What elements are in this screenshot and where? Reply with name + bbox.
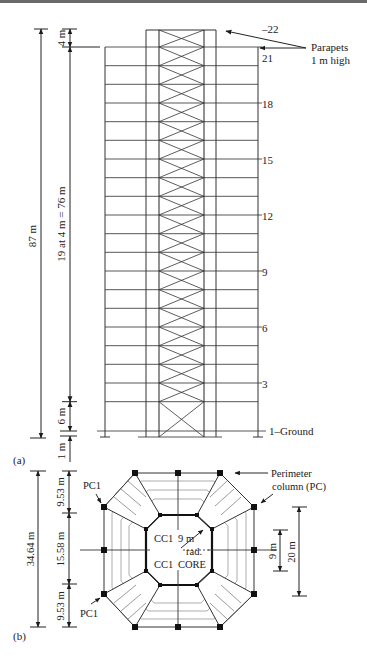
floor-label-12: 12 xyxy=(262,210,273,222)
floor-lines xyxy=(97,47,266,437)
dim-core-outer: 20 m xyxy=(286,541,297,562)
part-b-label: (b) xyxy=(13,630,26,643)
dim-typical-stories: 19 at 4 m = 76 m xyxy=(55,186,67,262)
pc1-top-label: PC1 xyxy=(83,480,101,491)
dim-bottom-segment: 9.53 m xyxy=(55,591,66,620)
floor-label-ground: 1–Ground xyxy=(269,425,314,437)
structural-diagram: 87 m 4 m 19 at 4 m = 76 m 6 m 1 m –22 21… xyxy=(0,0,367,662)
parapet-callout-line2: 1 m high xyxy=(311,54,351,66)
dim-top-story: 4 m xyxy=(55,29,67,46)
dim-core-inner: 9 m xyxy=(267,543,278,559)
core-label: CORE xyxy=(178,559,206,570)
pc1-bottom-label: PC1 xyxy=(80,608,98,619)
floor-label-3: 3 xyxy=(262,378,268,390)
cc1-bottom-label: CC1 xyxy=(154,559,173,570)
dim-first-story: 6 m xyxy=(55,407,67,424)
perimeter-callout-line2: column (PC) xyxy=(272,481,326,493)
dim-middle-segment: 15.58 m xyxy=(55,532,66,566)
dim-overall-plan: 34.64 m xyxy=(25,532,36,566)
cc1-top-label: CC1 xyxy=(154,533,173,544)
pc1-bottom-arrow xyxy=(91,598,100,604)
elevation-view xyxy=(97,30,266,437)
floor-label-21: 21 xyxy=(262,52,273,64)
dim-below-ground: 1 m xyxy=(55,442,67,459)
perimeter-callout-arrow-2 xyxy=(261,494,273,503)
dim-top-segment: 9.53 m xyxy=(55,477,66,506)
dim-total-height: 87 m xyxy=(26,224,38,247)
floor-label-roof: –22 xyxy=(261,23,279,35)
floor-label-9: 9 xyxy=(262,266,268,278)
perimeter-callout-line1: Perimeter xyxy=(271,468,312,479)
floor-label-6: 6 xyxy=(262,322,268,334)
pc1-top-arrow xyxy=(96,494,101,503)
parapet-callout-line1: Parapets xyxy=(311,41,348,53)
floor-label-18: 18 xyxy=(262,98,274,110)
radius-unit: rad. xyxy=(186,546,202,557)
radius-value: 9 m xyxy=(178,533,194,544)
floor-label-15: 15 xyxy=(262,154,274,166)
part-a-label: (a) xyxy=(13,454,26,467)
